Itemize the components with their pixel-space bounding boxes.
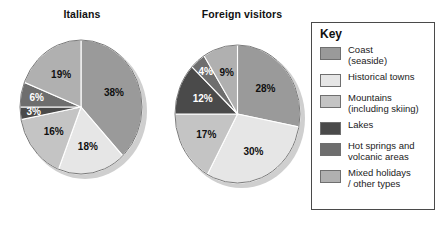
pie-chart-italians-svg: 38%18%16%3%6%19% [19, 39, 143, 175]
legend-label: Coast (seaside) [348, 45, 387, 66]
legend-item: Lakes [312, 120, 434, 135]
pie-chart-foreign-visitors: 28%30%17%12%4%9% [174, 44, 301, 184]
pie-slice-label: 28% [255, 83, 275, 94]
legend-swatch [320, 74, 341, 87]
legend-swatch [320, 143, 341, 156]
legend-swatch [320, 170, 341, 183]
pie-slice-label: 30% [243, 146, 263, 157]
legend-swatch [320, 47, 341, 60]
legend-label: Mountains (including skiing) [348, 93, 419, 114]
legend-title: Key [320, 27, 342, 41]
pie-chart-italians: 38%18%16%3%6%19% [19, 39, 143, 175]
pie-chart-foreign-visitors-svg: 28%30%17%12%4%9% [174, 44, 301, 184]
legend-item: Coast (seaside) [312, 45, 434, 66]
legend-label: Hot springs and volcanic areas [348, 141, 415, 162]
legend-item: Mountains (including skiing) [312, 93, 434, 114]
pie-slice-label: 9% [219, 67, 234, 78]
legend-item: Mixed holidays / other types [312, 168, 434, 189]
legend-swatch [320, 122, 341, 135]
legend-item: Hot springs and volcanic areas [312, 141, 434, 162]
pie-slice-label: 6% [29, 92, 44, 103]
legend-items: Coast (seaside)Historical townsMountains… [312, 45, 434, 195]
chart-title-italians: Italians [30, 8, 134, 20]
chart-title-foreign-visitors: Foreign visitors [178, 8, 306, 20]
pie-slice-label: 16% [44, 126, 64, 137]
pie-slice-label: 38% [104, 87, 124, 98]
legend-label: Historical towns [348, 72, 415, 83]
legend-swatch [320, 95, 341, 108]
legend-key-box: Key Coast (seaside)Historical townsMount… [311, 22, 435, 210]
legend-item: Historical towns [312, 72, 434, 87]
pie-slice-label: 12% [193, 93, 213, 104]
legend-label: Lakes [348, 120, 373, 131]
legend-label: Mixed holidays / other types [348, 168, 411, 189]
pie-slice-label: 3% [26, 106, 41, 117]
pie-charts-figure: Italians Foreign visitors 38%18%16%3%6%1… [0, 0, 442, 226]
pie-slice-label: 4% [198, 66, 213, 77]
pie-slice-label: 19% [51, 69, 71, 80]
pie-slice-label: 17% [196, 129, 216, 140]
pie-slice-label: 18% [78, 141, 98, 152]
